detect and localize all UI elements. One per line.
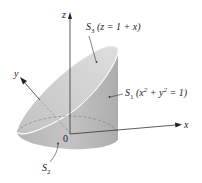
x-axis-label: x [184,120,188,130]
x-axis-arrow-icon [175,123,182,128]
z-axis-label: z [62,10,66,20]
origin-label: 0 [63,134,68,144]
s1-equation: (x2 + y2 = 1) [136,87,187,98]
s2-label: S2 [42,163,51,173]
s3-label: S3 (z = 1 + x) [86,22,141,32]
y-axis [24,82,40,100]
s3-equation: (z = 1 + x) [97,21,141,32]
y-axis-arrow-icon [20,77,27,85]
y-axis-label: y [14,69,18,79]
s1-label: S1 (x2 + y2 = 1) [125,88,187,98]
z-axis-arrow-icon [68,12,72,19]
